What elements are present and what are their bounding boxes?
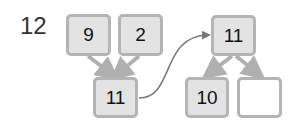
- part-box-1: 10: [185, 77, 229, 118]
- answer-input-box[interactable]: [237, 77, 282, 118]
- addend-box-2: 2: [118, 14, 163, 56]
- split-arrows: [211, 56, 256, 72]
- merge-arrows: [88, 56, 139, 73]
- addend-box-1: 9: [66, 14, 111, 56]
- whole-box: 11: [211, 15, 256, 56]
- sum-box: 11: [93, 77, 138, 118]
